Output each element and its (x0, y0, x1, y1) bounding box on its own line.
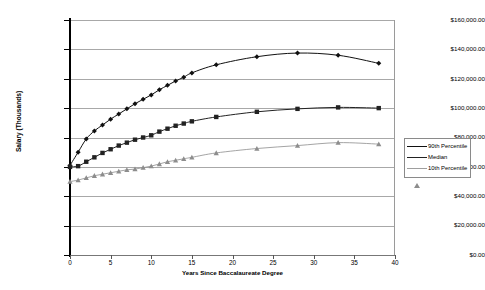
data-point (149, 133, 153, 137)
data-point (84, 160, 88, 164)
data-point (254, 54, 259, 59)
data-point (116, 112, 121, 117)
series-line-10th-percentile (70, 143, 379, 182)
data-point (76, 150, 81, 155)
data-point (125, 140, 129, 144)
data-point (165, 126, 169, 130)
data-point (295, 107, 299, 111)
x-tick-label: 0 (57, 259, 83, 266)
data-point (141, 97, 146, 102)
legend-marker-square-icon (407, 153, 427, 162)
x-tick-label: 30 (301, 259, 327, 266)
data-point (376, 61, 381, 66)
y-tick-label: $20,000.00 (421, 222, 485, 228)
salary-percentile-line-chart: $0.00$20,000.00$40,000.00$60,000.00$80,0… (0, 0, 485, 290)
x-tick-label: 25 (260, 259, 286, 266)
data-point (214, 62, 219, 67)
y-tick-label: $140,000.00 (421, 46, 485, 52)
series-line-90th-percentile (70, 53, 379, 165)
data-point (255, 110, 259, 114)
legend-item-90th: 90th Percentile (407, 141, 467, 152)
x-tick-label: 15 (179, 259, 205, 266)
plot-area (70, 20, 395, 255)
x-tick-label: 35 (341, 259, 367, 266)
data-point (181, 75, 186, 80)
data-point (157, 87, 162, 92)
data-point (377, 106, 381, 110)
data-point (117, 143, 121, 147)
legend-label-10th: 10th Percentile (427, 164, 467, 173)
legend-label-90th: 90th Percentile (427, 142, 467, 151)
data-point (133, 138, 137, 142)
data-point (133, 101, 138, 106)
data-point (189, 70, 194, 75)
data-point (149, 92, 154, 97)
data-point (92, 155, 96, 159)
y-tick-label: $100,000.00 (421, 105, 485, 111)
data-point (173, 78, 178, 83)
y-tick-label: $0.00 (421, 252, 485, 258)
data-point (295, 51, 300, 56)
y-tick-label: $160,000.00 (421, 17, 485, 23)
legend-item-10th: 10th Percentile (407, 163, 467, 174)
legend-marker-triangle-icon (407, 164, 427, 173)
data-point (336, 105, 340, 109)
data-point (68, 165, 72, 169)
x-tick-label: 10 (138, 259, 164, 266)
x-axis-title: Years Since Baccalaureate Degree (70, 269, 395, 276)
data-point (141, 135, 145, 139)
chart-legend: 90th Percentile Median 10th Percentile (404, 138, 471, 178)
x-tick-label: 20 (220, 259, 246, 266)
legend-label-median: Median (427, 153, 447, 162)
data-point (124, 106, 129, 111)
series-layer (70, 20, 395, 255)
y-axis-title: Salary (Thousands) (15, 62, 22, 182)
series-line-median (70, 107, 379, 167)
y-tick-label: $120,000.00 (421, 76, 485, 82)
data-point (173, 124, 177, 128)
data-point (336, 53, 341, 58)
data-point (182, 121, 186, 125)
legend-item-median: Median (407, 152, 467, 163)
x-tick-label: 5 (98, 259, 124, 266)
legend-marker-diamond-icon (407, 142, 427, 151)
data-point (76, 164, 80, 168)
data-point (190, 119, 194, 123)
y-tick-label: $40,000.00 (421, 193, 485, 199)
data-point (165, 83, 170, 88)
data-point (100, 151, 104, 155)
data-point (214, 115, 218, 119)
x-tick-label: 40 (382, 259, 408, 266)
data-point (108, 147, 112, 151)
data-point (157, 129, 161, 133)
